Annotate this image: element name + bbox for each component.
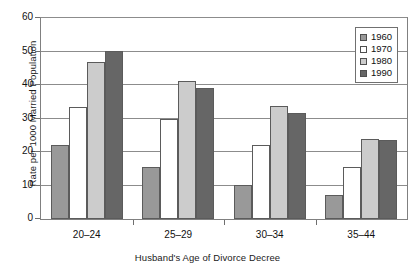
y-axis-tick-label: 10 [0, 180, 33, 190]
y-axis-tick [35, 185, 40, 186]
x-axis-tick [133, 220, 134, 225]
bar-1980-25–29 [178, 81, 196, 219]
legend-item-1990: 1990 [360, 67, 392, 79]
y-axis-tick-label: 50 [0, 46, 33, 56]
bar-1960-30–34 [234, 185, 252, 219]
bar-group [234, 18, 306, 219]
y-axis-tick [35, 118, 40, 119]
bar-1970-35–44 [343, 167, 361, 219]
y-axis-tick [35, 17, 40, 18]
bar-1970-20–24 [69, 107, 87, 219]
y-axis-tick-label: 20 [0, 146, 33, 156]
bar-1990-30–34 [288, 113, 306, 219]
bar-chart: Rate per 1000 Married Population 0102030… [0, 0, 415, 274]
bar-1980-30–34 [270, 106, 288, 219]
bar-group [51, 18, 123, 219]
y-axis-tick-label: 60 [0, 12, 33, 22]
y-axis-tick [35, 151, 40, 152]
y-axis-tick [35, 51, 40, 52]
cropped-caption-residue [8, 2, 408, 10]
bar-1960-25–29 [142, 167, 160, 219]
bar-1960-35–44 [325, 195, 343, 219]
legend-label: 1980 [371, 56, 392, 66]
bar-1970-25–29 [160, 119, 178, 219]
legend-swatch-icon [360, 58, 367, 65]
y-axis-tick [35, 84, 40, 85]
bars-layer [41, 18, 407, 219]
bar-group [142, 18, 214, 219]
x-axis-tick [316, 220, 317, 225]
bar-1990-25–29 [196, 88, 214, 219]
bar-1990-35–44 [379, 140, 397, 219]
bar-1960-20–24 [51, 145, 69, 219]
x-axis-tick-label: 20–24 [47, 229, 127, 240]
y-axis-tick-label: 30 [0, 113, 33, 123]
x-axis-tick-label: 35–44 [321, 229, 401, 240]
legend-item-1980: 1980 [360, 55, 392, 67]
legend-swatch-icon [360, 70, 367, 77]
legend-swatch-icon [360, 34, 367, 41]
legend-item-1970: 1970 [360, 43, 392, 55]
bar-1980-35–44 [361, 139, 379, 219]
y-axis-tick-label: 40 [0, 79, 33, 89]
x-axis-tick-label: 25–29 [138, 229, 218, 240]
legend-label: 1990 [371, 68, 392, 78]
x-axis-tick-label: 30–34 [230, 229, 310, 240]
x-axis-tick [224, 220, 225, 225]
legend-label: 1960 [371, 32, 392, 42]
bar-1970-30–34 [252, 145, 270, 219]
legend: 1960197019801990 [355, 27, 398, 83]
y-axis-tick-label: 0 [0, 213, 33, 223]
bar-1990-20–24 [105, 51, 123, 220]
x-axis-title: Husband's Age of Divorce Decree [0, 252, 415, 263]
bar-1980-20–24 [87, 62, 105, 219]
legend-item-1960: 1960 [360, 31, 392, 43]
legend-label: 1970 [371, 44, 392, 54]
y-axis-tick [35, 218, 40, 219]
legend-swatch-icon [360, 46, 367, 53]
